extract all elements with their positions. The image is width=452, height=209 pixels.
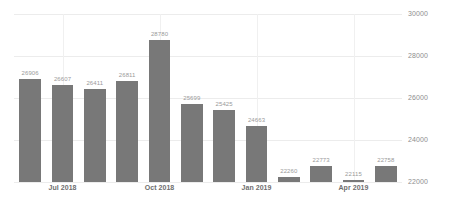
y-axis-labels: 2200024000260002800030000: [408, 14, 452, 182]
bar[interactable]: [310, 166, 332, 182]
bar-group[interactable]: 28780: [149, 14, 171, 182]
bar-group[interactable]: 22260: [278, 14, 300, 182]
bar[interactable]: [52, 85, 74, 182]
bar-chart: 2690626607264112681128780256992542524663…: [0, 0, 452, 209]
bar[interactable]: [278, 177, 300, 182]
x-axis-tick-label: Apr 2019: [339, 183, 369, 192]
bar-value-label: 22260: [280, 168, 297, 175]
x-axis-tick-label: Jan 2019: [242, 183, 272, 192]
y-axis-tick-label: 22000: [408, 178, 428, 186]
bars-layer: 2690626607264112681128780256992542524663…: [14, 14, 402, 182]
bar-group[interactable]: 26906: [19, 14, 41, 182]
bar-group[interactable]: 25699: [181, 14, 203, 182]
bar[interactable]: [149, 40, 171, 182]
bar[interactable]: [375, 166, 397, 182]
x-axis-tick-label: Oct 2018: [145, 183, 175, 192]
bar-value-label: 26811: [119, 72, 136, 79]
y-axis-tick-label: 24000: [408, 136, 428, 144]
bar-value-label: 22758: [377, 157, 394, 164]
x-axis-labels: Jul 2018Oct 2018Jan 2019Apr 2019: [14, 183, 402, 199]
bar-value-label: 28780: [151, 31, 168, 38]
bar-group[interactable]: 25425: [213, 14, 235, 182]
bar[interactable]: [116, 81, 138, 182]
bar-value-label: 26411: [86, 80, 103, 87]
bar[interactable]: [181, 104, 203, 182]
bar-group[interactable]: 26607: [52, 14, 74, 182]
bar[interactable]: [343, 180, 365, 182]
y-axis-tick-label: 28000: [408, 52, 428, 60]
bar[interactable]: [213, 110, 235, 182]
bar[interactable]: [19, 79, 41, 182]
bar-group[interactable]: 24663: [246, 14, 268, 182]
bar-group[interactable]: 26811: [116, 14, 138, 182]
y-axis-tick-label: 26000: [408, 94, 428, 102]
bar[interactable]: [246, 126, 268, 182]
bar-value-label: 22115: [345, 171, 362, 178]
bar-value-label: 24663: [248, 117, 265, 124]
bar-group[interactable]: 22758: [375, 14, 397, 182]
bar[interactable]: [84, 89, 106, 182]
x-axis-tick-label: Jul 2018: [48, 183, 76, 192]
bar-group[interactable]: 26411: [84, 14, 106, 182]
bar-group[interactable]: 22115: [343, 14, 365, 182]
y-axis-tick-label: 30000: [408, 10, 428, 18]
bar-value-label: 22773: [313, 157, 330, 164]
bar-value-label: 25699: [183, 95, 200, 102]
bar-value-label: 25425: [216, 101, 233, 108]
bar-value-label: 26906: [22, 70, 39, 77]
bar-group[interactable]: 22773: [310, 14, 332, 182]
bar-value-label: 26607: [54, 76, 71, 83]
plot-area: 2690626607264112681128780256992542524663…: [14, 14, 402, 182]
